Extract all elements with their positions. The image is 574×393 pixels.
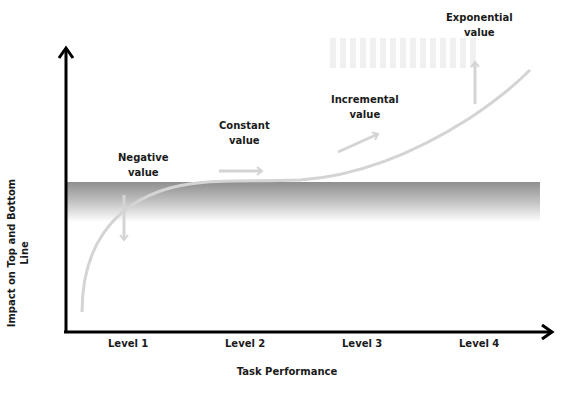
stage-line2: value [219, 133, 270, 148]
incremental-arrow-icon [338, 134, 378, 152]
tick-level-3: Level 3 [342, 338, 382, 349]
stage-line1: Constant [219, 118, 270, 133]
stage-line2: value [446, 25, 513, 40]
diagram-canvas [0, 0, 574, 393]
stage-line2: value [118, 165, 169, 180]
tick-level-4: Level 4 [459, 338, 499, 349]
stage-exponential-label: Exponential value [446, 10, 513, 40]
stage-negative-label: Negative value [118, 150, 169, 180]
stage-line1: Negative [118, 150, 169, 165]
x-axis-label: Task Performance [0, 366, 574, 377]
x-axis [64, 325, 552, 339]
y-axis-label: Impact on Top and Bottom Line [5, 173, 31, 333]
stage-constant-label: Constant value [219, 118, 270, 148]
tick-level-2: Level 2 [225, 338, 265, 349]
value-curve [82, 70, 530, 312]
stage-line1: Exponential [446, 10, 513, 25]
tick-level-1: Level 1 [108, 338, 148, 349]
stage-line2: value [331, 107, 399, 122]
y-axis [59, 48, 73, 333]
stage-incremental-label: Incremental value [331, 92, 399, 122]
stage-line1: Incremental [331, 92, 399, 107]
